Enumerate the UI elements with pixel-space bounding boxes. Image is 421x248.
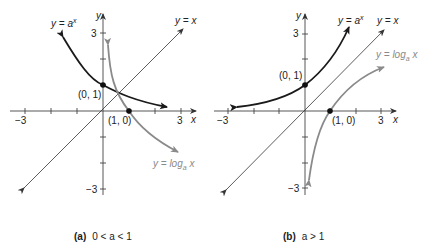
panel-b: y x 3 −3 −3 3 (0, 1) (1, 0) y = ax y = x… <box>214 10 418 242</box>
point-0-1 <box>302 82 308 88</box>
caption-a: (a)0 < a < 1 <box>74 231 132 242</box>
graphs-canvas: y x 3 −3 −3 3 (0, 1) (1, 0) y = ax y = x… <box>0 0 421 248</box>
x-axis-label: x <box>190 114 197 125</box>
tick-y-pos: 3 <box>293 28 299 39</box>
y-axis-label: y <box>295 10 302 21</box>
tick-x-neg: −3 <box>15 115 27 126</box>
identity-label: y = x <box>174 15 197 26</box>
point-1-0 <box>327 108 333 114</box>
x-axis-label: x <box>392 114 399 125</box>
tick-x-pos: 3 <box>177 115 183 126</box>
panel-a: y x 3 −3 −3 3 (0, 1) (1, 0) y = ax y = x… <box>10 10 197 242</box>
point-1-0 <box>126 108 132 114</box>
label-point-0-1: (0, 1) <box>78 89 101 100</box>
label-point-1-0: (1, 0) <box>332 115 355 126</box>
label-point-0-1: (0, 1) <box>279 70 302 81</box>
exp-curve <box>237 27 349 107</box>
caption-b: (b)a > 1 <box>283 231 325 242</box>
tick-y-neg: −3 <box>86 184 98 195</box>
tick-y-neg: −3 <box>288 183 300 194</box>
identity-label: y = x <box>376 15 399 26</box>
y-axis-label: y <box>95 10 102 21</box>
label-point-1-0: (1, 0) <box>108 115 131 126</box>
tick-x-neg: −3 <box>217 115 229 126</box>
log-curve-label: y = loga x <box>375 49 418 62</box>
tick-y-pos: 3 <box>91 28 97 39</box>
exp-curve-label: y = ax <box>50 17 77 29</box>
log-curve-label: y = loga x <box>152 158 195 171</box>
log-curve <box>108 45 178 152</box>
tick-x-pos: 3 <box>378 115 384 126</box>
exp-curve-label: y = ax <box>337 14 364 26</box>
point-0-1 <box>100 82 106 88</box>
